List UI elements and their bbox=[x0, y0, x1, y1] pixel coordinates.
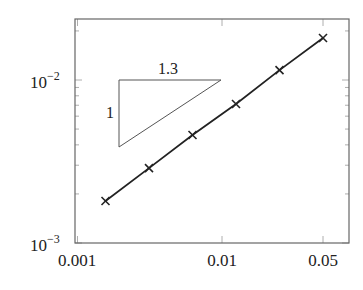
x-marker bbox=[189, 131, 197, 139]
y-axis-ticks: 10−310−2 bbox=[30, 69, 60, 255]
convergence-chart: 0.0010.010.05 10−310−2 1.3 1 bbox=[0, 0, 363, 290]
x-marker bbox=[145, 164, 153, 172]
x-tick-label: 0.001 bbox=[58, 251, 96, 270]
data-series bbox=[102, 34, 327, 205]
slope-triangle: 1.3 1 bbox=[106, 60, 221, 147]
x-marker bbox=[232, 100, 240, 108]
x-marker bbox=[276, 66, 284, 74]
y-tick-label: 10−3 bbox=[30, 232, 60, 255]
slope-horizontal-label: 1.3 bbox=[158, 60, 178, 77]
y-tick-label: 10−2 bbox=[30, 69, 60, 92]
slope-vertical-label: 1 bbox=[106, 104, 114, 121]
minor-ticks bbox=[75, 19, 349, 243]
plot-frame bbox=[75, 19, 349, 243]
x-marker bbox=[102, 197, 110, 205]
x-marker bbox=[319, 34, 327, 42]
x-axis-ticks: 0.0010.010.05 bbox=[58, 251, 338, 270]
x-tick-label: 0.01 bbox=[207, 251, 237, 270]
x-tick-label: 0.05 bbox=[308, 251, 338, 270]
